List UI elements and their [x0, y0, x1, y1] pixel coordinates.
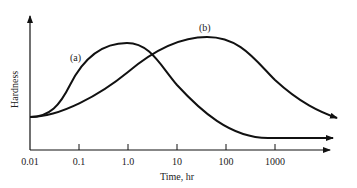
x-tick-label: 10	[172, 156, 182, 167]
x-tick-label: 1.0	[122, 156, 135, 167]
series-label-b: (b)	[199, 22, 211, 33]
x-axis-label: Time, hr	[160, 171, 194, 182]
hardness-vs-time-chart: (a) (b) Hardness 0.01 0.1 1.0 10 100 100…	[0, 0, 357, 188]
x-ticks	[79, 144, 275, 150]
x-tick-label: 0.1	[73, 156, 86, 167]
series-label-a: (a)	[70, 52, 81, 63]
x-tick-label: 100	[219, 156, 234, 167]
curve-b	[30, 37, 337, 118]
x-tick-label: 1000	[265, 156, 285, 167]
x-tick-label: 0.01	[21, 156, 39, 167]
y-axis-label: Hardness	[9, 71, 20, 108]
